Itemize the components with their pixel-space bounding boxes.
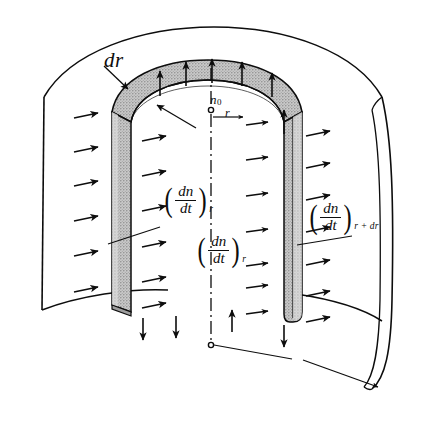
flux-arrows-shell-interior-left bbox=[142, 136, 166, 308]
arrow-outer-left-4 bbox=[74, 216, 98, 221]
arrow-outer-left-2 bbox=[74, 147, 98, 152]
fraction-numerator: dn bbox=[176, 184, 195, 200]
arrow-outer-left-3 bbox=[74, 181, 98, 186]
fraction-numerator: dn bbox=[321, 201, 340, 217]
flux-subscript: r + dr bbox=[354, 222, 379, 234]
arrow-interior-left-2 bbox=[142, 171, 166, 176]
arrow-interior-left-4 bbox=[142, 242, 166, 247]
shell-left-wall bbox=[112, 112, 131, 316]
outer-cylinder-floor-right bbox=[296, 294, 382, 321]
shell-right-wall-highlight bbox=[293, 112, 302, 321]
flux-arrows-bottom-down bbox=[143, 310, 284, 347]
label-dr: dr bbox=[104, 48, 124, 73]
paren-left: ( bbox=[198, 236, 206, 264]
arrow-interior-right-6 bbox=[246, 285, 268, 288]
outer-cylinder-right-inner-wall bbox=[364, 110, 380, 387]
arrow-outer-right-6 bbox=[306, 291, 330, 296]
fraction-denominator: dt bbox=[211, 251, 227, 267]
fraction-denominator: dt bbox=[178, 201, 194, 217]
paren-right: ) bbox=[232, 236, 240, 264]
shell-top-ring-face bbox=[112, 60, 302, 122]
arrow-interior-right-2 bbox=[246, 157, 268, 160]
axis-origin-marker-top bbox=[208, 107, 213, 112]
outer-radius-dim-segment-left bbox=[214, 345, 292, 359]
label-flux-outer: ( dn dt ) r + dr bbox=[308, 201, 379, 234]
label-n0: n0 bbox=[210, 92, 222, 108]
flux-subscript: r bbox=[209, 205, 213, 217]
arrow-outer-right-5 bbox=[306, 260, 330, 265]
fraction-numerator: dn bbox=[209, 234, 228, 250]
arrow-interior-right-3 bbox=[246, 193, 268, 196]
arrow-interior-right-4 bbox=[246, 229, 268, 232]
outer-cylinder-right-wall-cap bbox=[372, 97, 382, 110]
label-n0-base: n bbox=[210, 92, 217, 107]
flux-subscript: r bbox=[242, 255, 246, 267]
paren-left: ( bbox=[165, 186, 173, 214]
arrow-interior-right-5 bbox=[246, 263, 268, 266]
outer-cylinder-left-cut-edge bbox=[42, 97, 44, 310]
flux-arrows-outer-left bbox=[74, 113, 98, 292]
figure-container: dr n0 r ( dn dt ) r ( dn dt ) r bbox=[0, 0, 434, 422]
arrow-outer-right-2 bbox=[306, 163, 330, 168]
outer-cylinder-right-wall-foot bbox=[364, 387, 372, 390]
arrow-outer-right-7 bbox=[306, 317, 330, 322]
shell-right-wall bbox=[284, 112, 302, 322]
outer-cylinder-right-outer-wall bbox=[372, 97, 393, 389]
outer-radius-dim-segment-right bbox=[303, 360, 378, 387]
axis-origin-marker-bottom bbox=[208, 342, 213, 347]
paren-left: ( bbox=[310, 203, 318, 231]
dr-leader-lower bbox=[157, 105, 196, 128]
label-n0-subscript: 0 bbox=[217, 97, 222, 107]
arrow-interior-left-5 bbox=[142, 277, 166, 282]
label-r-radius: r bbox=[225, 106, 230, 121]
arrow-interior-right-7 bbox=[246, 311, 268, 314]
arrow-outer-right-1 bbox=[306, 131, 330, 136]
arrow-outer-left-5 bbox=[74, 251, 98, 256]
arrow-interior-left-6 bbox=[142, 303, 166, 308]
fraction-denominator: dt bbox=[323, 218, 339, 234]
label-flux-inner-lower: ( dn dt ) r bbox=[196, 234, 246, 267]
paren-right: ) bbox=[199, 186, 207, 214]
shell-top-annulus bbox=[112, 60, 302, 122]
arrow-outer-left-1 bbox=[74, 113, 98, 118]
arrow-outer-left-6 bbox=[74, 287, 98, 292]
leader-outer-flux bbox=[297, 236, 352, 245]
shell-left-wall-highlight bbox=[112, 112, 118, 307]
arrow-interior-right-1 bbox=[246, 122, 268, 125]
paren-right: ) bbox=[344, 203, 352, 231]
arrow-interior-left-1 bbox=[142, 136, 166, 141]
flux-arrows-shell-interior-right bbox=[246, 122, 268, 314]
outer-radius-dimension bbox=[214, 345, 378, 387]
label-flux-inner-upper: ( dn dt ) r bbox=[163, 184, 213, 217]
